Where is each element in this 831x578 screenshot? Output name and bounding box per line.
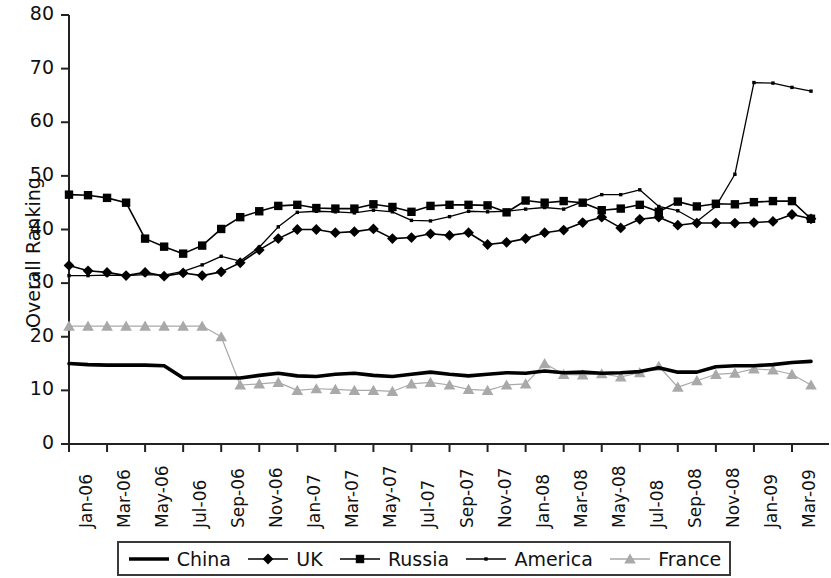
data-point: [521, 196, 529, 204]
data-point: [83, 265, 94, 276]
data-point: [634, 214, 645, 225]
x-tick-label: Mar-09: [799, 469, 819, 528]
data-point: [178, 268, 189, 279]
data-point: [805, 379, 817, 389]
data-point: [273, 233, 284, 244]
x-tick-label: Nov-06: [266, 468, 286, 529]
legend-item-france[interactable]: France: [608, 548, 721, 570]
data-point: [539, 358, 551, 368]
data-point: [540, 198, 548, 206]
data-point: [311, 383, 323, 393]
data-point: [444, 230, 455, 241]
x-tick-label: Mar-06: [114, 469, 134, 528]
data-point: [712, 200, 720, 208]
data-point: [520, 233, 531, 244]
legend-item-uk[interactable]: UK: [246, 548, 322, 570]
data-point: [410, 219, 413, 222]
data-point: [502, 208, 510, 216]
triangle-marker-icon: [608, 550, 652, 568]
y-tick-label: 20: [12, 324, 54, 346]
x-tick-label: Sep-08: [685, 468, 705, 528]
y-tick-label: 80: [12, 2, 54, 24]
data-point: [638, 188, 641, 191]
x-tick-label: May-08: [609, 465, 629, 528]
x-tick-label: Jan-06: [76, 474, 96, 528]
x-tick-label: Jan-07: [304, 474, 324, 528]
data-point: [769, 197, 777, 205]
data-point: [160, 242, 168, 250]
data-point: [312, 204, 320, 212]
legend-label: UK: [296, 548, 322, 570]
data-point: [577, 217, 588, 228]
data-point: [159, 271, 170, 282]
data-point: [197, 270, 208, 281]
diamond-marker-icon: [246, 550, 290, 568]
data-point: [464, 201, 472, 209]
data-point: [463, 227, 474, 238]
data-point: [636, 201, 644, 209]
legend-label: Russia: [388, 548, 449, 570]
data-point: [655, 208, 663, 216]
legend-label: China: [177, 548, 231, 570]
data-point: [65, 190, 73, 198]
data-point: [445, 201, 453, 209]
x-tick-label: Mar-07: [342, 469, 362, 528]
chart-legend: ChinaUKRussiaAmericaFrance: [117, 541, 731, 576]
legend-item-russia[interactable]: Russia: [338, 548, 449, 570]
data-point: [539, 227, 550, 238]
x-tick-label: May-07: [380, 465, 400, 528]
data-point: [790, 86, 793, 89]
x-tick-label: May-06: [152, 465, 172, 528]
data-point: [562, 207, 565, 210]
data-point: [807, 215, 815, 223]
chart-container: Overall Ranking 01020304050607080 Jan-06…: [0, 0, 831, 578]
data-point: [729, 218, 740, 229]
data-point: [674, 197, 682, 205]
data-point: [277, 225, 280, 228]
y-axis-title: Overall Ranking: [22, 177, 44, 328]
data-point: [388, 203, 396, 211]
x-tick-label: Jan-08: [533, 474, 553, 528]
data-point: [349, 226, 360, 237]
data-point: [255, 207, 263, 215]
data-point: [121, 270, 132, 281]
data-point: [749, 217, 760, 228]
data-point: [524, 207, 527, 210]
data-point: [140, 267, 151, 278]
data-point: [67, 274, 70, 277]
x-tick-label: Mar-08: [571, 469, 591, 528]
legend-item-america[interactable]: America: [464, 548, 592, 570]
data-point: [407, 208, 415, 216]
data-point: [200, 263, 203, 266]
data-point: [710, 218, 721, 229]
data-point: [198, 241, 206, 249]
y-tick-label: 30: [12, 270, 54, 292]
data-point: [236, 213, 244, 221]
data-point: [220, 255, 223, 258]
data-point: [615, 222, 626, 233]
x-tick-label: Jul-06: [190, 480, 210, 528]
data-point: [693, 202, 701, 210]
x-tick-label: Nov-08: [723, 468, 743, 529]
square-marker-icon: [338, 550, 382, 568]
data-point: [84, 191, 92, 199]
data-point: [103, 194, 111, 202]
data-point: [482, 239, 493, 250]
data-point: [254, 244, 265, 255]
data-point: [122, 198, 130, 206]
data-point: [272, 377, 284, 387]
data-point: [617, 204, 625, 212]
data-point: [64, 260, 75, 271]
y-axis-ticks: [61, 15, 69, 444]
y-tick-label: 10: [12, 377, 54, 399]
series-uk: [64, 209, 817, 281]
series-america: [67, 81, 812, 277]
data-point: [486, 210, 489, 213]
legend-item-china[interactable]: China: [127, 548, 231, 570]
data-point: [350, 204, 358, 212]
series-russia: [65, 190, 815, 257]
data-point: [501, 237, 512, 248]
legend-label: America: [514, 548, 592, 570]
data-point: [619, 193, 622, 196]
data-point: [809, 89, 812, 92]
